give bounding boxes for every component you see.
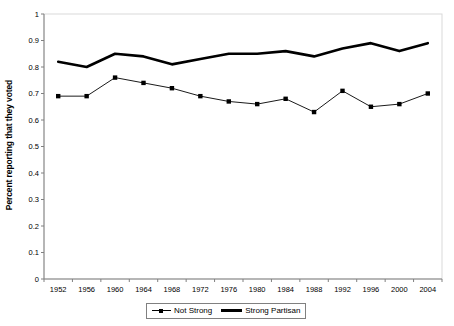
legend-swatch-thick-line-icon	[221, 306, 242, 315]
x-axis-tick-label: 2004	[419, 285, 436, 294]
data-point-marker	[255, 102, 259, 106]
chart-legend: Not Strong Strong Partisan	[146, 303, 306, 319]
data-point-marker	[340, 89, 344, 93]
x-axis-tick-label: 1960	[107, 285, 124, 294]
data-point-marker	[283, 97, 287, 101]
legend-item-strong-partisan[interactable]: Strong Partisan	[221, 305, 300, 316]
y-axis-tick-label: 0	[35, 275, 39, 284]
x-axis-tick-label: 1952	[50, 285, 67, 294]
y-axis-tick-label: 0.5	[29, 142, 39, 151]
data-point-marker	[312, 110, 316, 114]
data-point-marker	[56, 94, 60, 98]
x-axis-tick-label: 1996	[363, 285, 380, 294]
x-axis-tick-label: 1964	[135, 285, 152, 294]
x-axis-tick-label: 2000	[391, 285, 408, 294]
data-point-marker	[113, 75, 117, 79]
data-point-marker	[198, 94, 202, 98]
legend-swatch-line-marker-icon	[152, 306, 171, 315]
x-axis-tick-label: 1956	[78, 285, 95, 294]
x-axis-tick-label: 1980	[249, 285, 266, 294]
y-axis-tick-label: 0.4	[29, 169, 39, 178]
chart-container: Percent reporting that they voted 00.10.…	[0, 0, 454, 326]
y-axis-tick-label: 0.9	[29, 36, 39, 45]
chart-plot-area: 00.10.20.30.40.50.60.70.80.9119521956196…	[0, 0, 454, 326]
legend-label-not-strong: Not Strong	[174, 305, 212, 316]
y-axis-tick-label: 0.2	[29, 222, 39, 231]
data-point-marker	[397, 102, 401, 106]
y-axis-tick-label: 0.8	[29, 63, 39, 72]
data-point-marker	[369, 105, 373, 109]
data-point-marker	[426, 91, 430, 95]
x-axis-tick-label: 1968	[164, 285, 181, 294]
x-axis-tick-label: 1988	[306, 285, 323, 294]
x-axis-tick-label: 1976	[220, 285, 237, 294]
y-axis-tick-label: 0.6	[29, 116, 39, 125]
series-line-2	[58, 43, 428, 67]
data-point-marker	[170, 86, 174, 90]
data-point-marker	[84, 94, 88, 98]
legend-item-not-strong[interactable]: Not Strong	[152, 305, 212, 316]
y-axis-tick-label: 1	[35, 10, 39, 19]
y-axis-tick-label: 0.3	[29, 195, 39, 204]
data-point-marker	[227, 99, 231, 103]
y-axis-tick-label: 0.1	[29, 248, 39, 257]
x-axis-tick-label: 1992	[334, 285, 351, 294]
x-axis-tick-label: 1984	[277, 285, 294, 294]
data-point-marker	[141, 81, 145, 85]
legend-label-strong-partisan: Strong Partisan	[245, 305, 300, 316]
x-axis-tick-label: 1972	[192, 285, 209, 294]
y-axis-tick-label: 0.7	[29, 89, 39, 98]
